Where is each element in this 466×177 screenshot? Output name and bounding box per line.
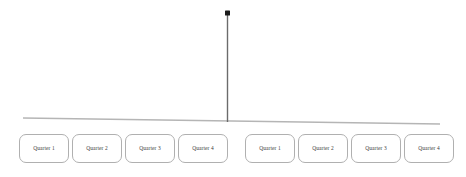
quarter-node-label: Quarter 4 — [192, 146, 213, 151]
quarter-node-left-2[interactable]: Quarter 2 — [72, 134, 122, 163]
quarter-node-label: Quarter 3 — [365, 146, 386, 151]
quarter-node-label: Quarter 1 — [259, 146, 280, 151]
quarter-node-left-1[interactable]: Quarter 1 — [19, 134, 69, 163]
quarter-node-left-3[interactable]: Quarter 3 — [125, 134, 175, 163]
quarter-node-right-2[interactable]: Quarter 2 — [298, 134, 348, 163]
quarter-node-right-4[interactable]: Quarter 4 — [404, 134, 454, 163]
quarter-node-left-4[interactable]: Quarter 4 — [178, 134, 228, 163]
quarter-node-layer: Quarter 1 Quarter 2 Quarter 3 Quarter 4 … — [0, 0, 466, 177]
quarter-node-label: Quarter 3 — [139, 146, 160, 151]
quarter-node-label: Quarter 2 — [312, 146, 333, 151]
quarter-node-label: Quarter 2 — [86, 146, 107, 151]
diagram-canvas: Quarter 1 Quarter 2 Quarter 3 Quarter 4 … — [0, 0, 466, 177]
quarter-node-label: Quarter 1 — [33, 146, 54, 151]
quarter-node-right-3[interactable]: Quarter 3 — [351, 134, 401, 163]
quarter-node-label: Quarter 4 — [418, 146, 439, 151]
quarter-node-right-1[interactable]: Quarter 1 — [245, 134, 295, 163]
